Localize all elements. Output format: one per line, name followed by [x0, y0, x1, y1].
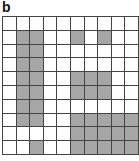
grid-cell	[57, 17, 71, 31]
grid-cell-shaded	[17, 114, 31, 128]
grid-cell-shaded	[17, 45, 31, 59]
grid-cell	[71, 100, 85, 114]
grid-cell-shaded	[125, 141, 139, 155]
grid-cell	[57, 45, 71, 59]
grid-cell	[30, 127, 44, 141]
grid-cell-shaded	[17, 31, 31, 45]
grid-cell-shaded	[85, 86, 99, 100]
grid-cell-shaded	[98, 72, 112, 86]
grid-cell	[3, 58, 17, 72]
grid-cell	[125, 31, 139, 45]
grid-cell-shaded	[85, 72, 99, 86]
grid-cell	[98, 17, 112, 31]
grid-cell-shaded	[71, 127, 85, 141]
grid-cell	[44, 72, 58, 86]
grid-cell-shaded	[98, 127, 112, 141]
grid-cell	[85, 100, 99, 114]
grid-cell	[57, 72, 71, 86]
grid-cell	[30, 17, 44, 31]
grid-cell	[3, 86, 17, 100]
grid-cell	[44, 127, 58, 141]
grid-cell	[125, 45, 139, 59]
grid-cell-shaded	[112, 141, 126, 155]
grid-cell	[98, 45, 112, 59]
grid-cell-shaded	[85, 127, 99, 141]
grid-cell	[3, 127, 17, 141]
grid-cell-shaded	[125, 127, 139, 141]
grid-cell	[112, 45, 126, 59]
grid-cell	[3, 141, 17, 155]
grid-cell	[44, 17, 58, 31]
grid-cell-shaded	[112, 114, 126, 128]
grid-cell-shaded	[17, 72, 31, 86]
grid-cell-shaded	[30, 72, 44, 86]
grid-cell-shaded	[71, 86, 85, 100]
grid-cell	[98, 100, 112, 114]
grid-cell-shaded	[17, 100, 31, 114]
grid-cell	[125, 72, 139, 86]
grid-cell	[85, 58, 99, 72]
grid-cell-shaded	[30, 114, 44, 128]
grid-cell	[57, 100, 71, 114]
grid-cell	[112, 17, 126, 31]
grid-cell-shaded	[30, 100, 44, 114]
grid-cell-shaded	[98, 86, 112, 100]
grid-cell-shaded	[98, 31, 112, 45]
grid-cell	[125, 58, 139, 72]
grid-cell-shaded	[112, 127, 126, 141]
grid-cell-shaded	[98, 114, 112, 128]
grid-cell-shaded	[17, 58, 31, 72]
grid-cell	[57, 58, 71, 72]
grid-cell	[112, 31, 126, 45]
grid-cell	[3, 100, 17, 114]
grid-cell	[3, 72, 17, 86]
grid-cell-shaded	[71, 141, 85, 155]
grid-cell	[98, 58, 112, 72]
grid-cell	[125, 17, 139, 31]
grid-cell	[17, 17, 31, 31]
grid-cell	[57, 31, 71, 45]
grid-cell	[85, 45, 99, 59]
grid-cell-shaded	[125, 114, 139, 128]
grid-cell	[44, 45, 58, 59]
grid-cell	[57, 127, 71, 141]
grid-cell-shaded	[30, 141, 44, 155]
grid-cell	[3, 45, 17, 59]
grid-cell	[125, 86, 139, 100]
grid-cell	[17, 127, 31, 141]
shaded-grid	[2, 16, 139, 155]
grid-cell-shaded	[71, 72, 85, 86]
grid-cell-shaded	[30, 86, 44, 100]
grid-cell	[85, 31, 99, 45]
grid-cell-shaded	[98, 141, 112, 155]
grid-cell-shaded	[30, 45, 44, 59]
grid-cell-shaded	[17, 86, 31, 100]
grid-cell	[125, 100, 139, 114]
grid-cell	[71, 17, 85, 31]
grid-cell	[44, 31, 58, 45]
grid-cell	[85, 17, 99, 31]
grid-cell	[3, 31, 17, 45]
grid-cell	[44, 86, 58, 100]
grid-cell	[112, 58, 126, 72]
grid-cell	[57, 86, 71, 100]
grid-cell-shaded	[71, 114, 85, 128]
grid-cell-shaded	[30, 31, 44, 45]
grid-cell	[44, 100, 58, 114]
panel-label: b	[2, 0, 11, 15]
grid-cell	[57, 114, 71, 128]
grid-cell-shaded	[30, 58, 44, 72]
grid-cell	[112, 86, 126, 100]
grid-cell	[44, 141, 58, 155]
grid-cell	[112, 72, 126, 86]
grid-cell	[71, 58, 85, 72]
grid-cell-shaded	[85, 114, 99, 128]
grid-cell	[3, 114, 17, 128]
grid-cell	[3, 17, 17, 31]
grid-cell-shaded	[71, 31, 85, 45]
grid-cell	[44, 114, 58, 128]
grid-cell-shaded	[85, 141, 99, 155]
grid-cell	[71, 45, 85, 59]
grid-cell	[44, 58, 58, 72]
grid-cell	[57, 141, 71, 155]
